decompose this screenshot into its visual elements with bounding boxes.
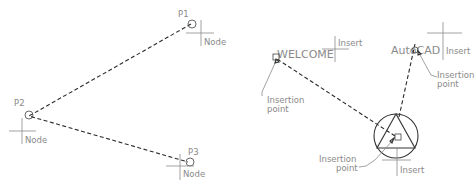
node-snap-figure: P1 Node P2 Node P3 Node <box>9 9 226 180</box>
text-welcome: WELCOME <box>277 48 334 61</box>
point-p2: P2 Node <box>9 98 47 145</box>
callout-point: point <box>437 79 459 89</box>
callout-point: point <box>267 104 289 114</box>
insert-marker-icon <box>395 134 401 140</box>
snap-label-node: Node <box>25 135 47 145</box>
block-object: Insert Insertion point <box>319 114 425 176</box>
dashed-path <box>29 24 191 162</box>
diagram-canvas: P1 Node P2 Node P3 Node WELC <box>0 0 476 189</box>
point-label-p2: P2 <box>14 98 25 108</box>
node-marker-icon <box>188 20 196 28</box>
welcome-text-object: WELCOME Insert Insertion point <box>262 36 363 114</box>
snap-label-insert: Insert <box>338 38 363 48</box>
point-p3: P3 Node <box>166 147 205 180</box>
snap-label-node: Node <box>204 37 226 47</box>
insert-snap-figure: WELCOME Insert Insertion point AutoCAD I… <box>262 22 474 176</box>
snap-label-insert: Insert <box>400 165 425 175</box>
point-label-p1: P1 <box>178 9 189 19</box>
block-circle <box>374 114 418 158</box>
snap-label-insert: Insert <box>446 46 471 56</box>
arrowhead-icon <box>390 138 394 143</box>
leader-line <box>262 61 276 96</box>
snap-label-node: Node <box>183 169 205 179</box>
point-p1: P1 Node <box>178 9 226 47</box>
point-label-p3: P3 <box>188 147 199 157</box>
text-autocad: AutoCAD <box>391 44 440 57</box>
callout-point: point <box>336 163 358 173</box>
autocad-text-object: AutoCAD Insert Insertion point <box>391 22 474 89</box>
